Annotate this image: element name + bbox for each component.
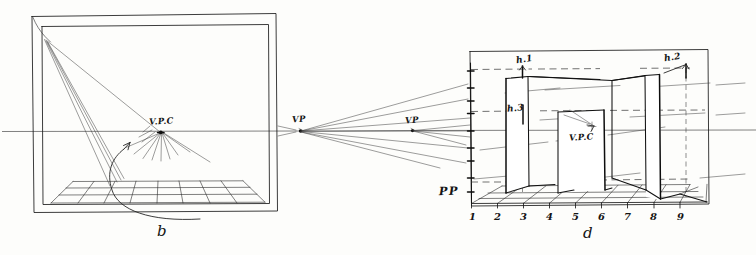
panel-d-caption: d (583, 226, 593, 241)
panel-b-outer-frame (32, 14, 278, 213)
ground-number-5: 5 (572, 212, 579, 222)
panel-b-inner-frame (42, 25, 270, 205)
panel-d-group (468, 50, 746, 209)
ground-number-9: 9 (677, 212, 684, 222)
ground-number-2: 2 (494, 212, 501, 222)
ground-number-1: 1 (469, 212, 476, 222)
panel-b-caption: b (157, 224, 167, 239)
vp-right-label: VP (405, 116, 419, 125)
panel-d-h2-marker (664, 64, 689, 78)
ground-number-6: 6 (598, 212, 605, 222)
panel-b-vpc-label: V.P.C (149, 116, 174, 126)
panel-d-h1-marker (520, 66, 526, 78)
panel-d-wall-right (612, 74, 680, 200)
perspective-diagram-svg (0, 0, 756, 255)
panel-b-ground-grid (51, 181, 265, 203)
vp-left-label: VP (292, 115, 306, 124)
panel-b-vpc-left-stubs (139, 126, 155, 142)
panel-d-vpc-label: V.P.C (569, 132, 594, 142)
ground-number-8: 8 (650, 212, 657, 222)
drawing-sheet: V.P.C b VP VP h.1 h.2 h.3 V.P.C PP 1 2 3… (0, 0, 756, 255)
vp-left-node-group (299, 84, 470, 168)
ground-number-4: 4 (546, 212, 553, 222)
panel-b-vpc-fan (126, 133, 210, 163)
ground-number-3: 3 (520, 212, 527, 222)
picture-plane-label: PP (439, 186, 459, 198)
ground-number-7: 7 (624, 212, 631, 222)
vp-right-node-group (411, 125, 470, 145)
height-label-h3: h.3 (507, 103, 525, 113)
panel-b-ray-bundle (45, 40, 161, 187)
